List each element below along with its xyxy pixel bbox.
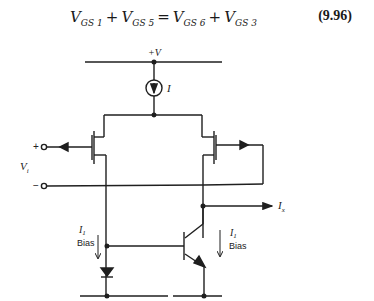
diode-icon	[101, 268, 113, 277]
bias-left-text: Bias	[77, 238, 95, 248]
bias-right-current-label: I1	[229, 227, 237, 240]
minus-input-line	[47, 185, 203, 186]
circuit-diagram: +V I + − Vi Ix I1 Bias I1 Bias	[0, 0, 374, 301]
output-current-label: Ix	[277, 199, 286, 214]
bjt-transistor	[184, 206, 206, 298]
plus-terminal	[41, 144, 46, 149]
supply-label: +V	[148, 47, 163, 58]
input-plus-label: +	[33, 141, 39, 152]
right-mosfet	[202, 115, 263, 238]
input-minus-label: −	[33, 180, 39, 191]
input-voltage-label: Vi	[20, 160, 29, 175]
left-mosfet	[47, 115, 106, 296]
minus-terminal	[41, 183, 46, 188]
bias-right-text: Bias	[229, 241, 247, 251]
current-source-label: I	[166, 82, 172, 94]
bias-left-current-label: I1	[78, 224, 86, 237]
